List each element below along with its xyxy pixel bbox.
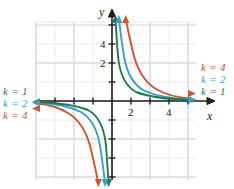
x-axis-label: x	[207, 110, 212, 122]
y-tick-label-4: 4	[100, 39, 106, 50]
legend-left-k4-text: k = 4	[3, 109, 28, 121]
x-axis-arrow	[207, 97, 215, 104]
curve-arrowheads-bottom	[95, 179, 112, 187]
y-axis-arrow	[108, 9, 115, 17]
arrowhead-k4-up	[122, 15, 129, 23]
x-tick-label-2: 2	[128, 107, 134, 118]
x-tick-label-4: 4	[166, 107, 172, 118]
legend-left-item-k1: k = 1	[3, 86, 28, 97]
hyperbola-figure: y x 2 4 2 4 k = 1 k = 2 k = 4 k = 4 k = …	[0, 0, 234, 189]
legend-left-item-k4: k = 4	[3, 110, 28, 121]
legend-right-item-k4: k = 4	[201, 62, 226, 73]
legend-left-item-k2: k = 2	[3, 98, 28, 109]
arrowhead-k4-down	[95, 179, 102, 187]
legend-right-k2-text: k = 2	[201, 73, 226, 85]
legend-right-k1-text: k = 1	[201, 85, 226, 97]
y-axis-label: y	[99, 6, 104, 18]
legend-right: k = 4 k = 2 k = 1	[201, 62, 226, 98]
legend-left-k1-text: k = 1	[3, 85, 28, 97]
legend-right-item-k1: k = 1	[201, 86, 226, 97]
y-tick-label-2: 2	[100, 58, 106, 69]
legend-right-item-k2: k = 2	[201, 74, 226, 85]
graph-canvas	[0, 0, 234, 189]
legend-left-k2-text: k = 2	[3, 97, 28, 109]
legend-left: k = 1 k = 2 k = 4	[3, 86, 28, 122]
legend-right-k4-text: k = 4	[201, 61, 226, 73]
